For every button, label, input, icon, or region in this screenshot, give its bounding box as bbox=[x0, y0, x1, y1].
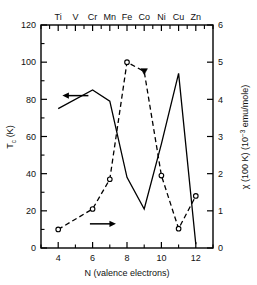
y2-tick-label: 3 bbox=[218, 132, 223, 142]
x-axis-tick-labels: 4681012 bbox=[56, 253, 201, 263]
data-marker-open-circle bbox=[90, 207, 95, 212]
data-marker-open-circle bbox=[194, 194, 199, 199]
y2-tick-label: 5 bbox=[218, 57, 223, 67]
y-tick-label: 100 bbox=[21, 57, 36, 67]
data-marker-open-circle bbox=[56, 227, 61, 232]
element-label: Ti bbox=[55, 12, 62, 22]
y2-tick-label: 4 bbox=[218, 95, 223, 105]
y2-axis-title-tail: emu/mole) bbox=[240, 85, 250, 130]
right-axis-ticks bbox=[207, 25, 213, 248]
element-label: Ni bbox=[157, 12, 166, 22]
chart-figure: TiVCrMnFeCoNiCuZn 4681012 02040608010012… bbox=[0, 0, 257, 285]
y2-tick-label: 0 bbox=[218, 243, 223, 253]
y-axis-title: Tc (K) bbox=[5, 125, 17, 148]
x-tick-label: 8 bbox=[124, 253, 129, 263]
element-label: Co bbox=[138, 12, 150, 22]
x-axis-title: N (valence electrons) bbox=[84, 268, 169, 278]
y-tick-label: 120 bbox=[21, 20, 36, 30]
x-tick-label: 6 bbox=[90, 253, 95, 263]
y2-tick-label: 1 bbox=[218, 206, 223, 216]
y2-tick-label: 6 bbox=[218, 20, 223, 30]
bottom-axis-ticks bbox=[41, 242, 213, 248]
y-tick-label: 60 bbox=[26, 132, 36, 142]
top-axis-labels: TiVCrMnFeCoNiCuZn bbox=[55, 12, 201, 22]
y-tick-label: 20 bbox=[26, 206, 36, 216]
left-axis-ticks bbox=[41, 25, 47, 248]
data-marker-filled-triangle bbox=[141, 69, 147, 75]
element-label: Cr bbox=[88, 12, 98, 22]
y-tick-label: 0 bbox=[31, 243, 36, 253]
x-tick-label: 12 bbox=[191, 253, 201, 263]
y2-axis-title: χ (100 K) (10−3 emu/mole) bbox=[239, 85, 250, 190]
x-tick-label: 10 bbox=[156, 253, 166, 263]
annotation-arrow-head-left-arrow bbox=[62, 92, 69, 98]
top-axis-ticks bbox=[41, 25, 213, 31]
element-label: Fe bbox=[122, 12, 133, 22]
element-label: Mn bbox=[104, 12, 117, 22]
svg-text:Tc (K): Tc (K) bbox=[5, 125, 17, 148]
data-marker-open-circle bbox=[108, 177, 113, 182]
data-marker-open-circle bbox=[176, 226, 181, 231]
y-tick-label: 40 bbox=[26, 169, 36, 179]
svg-text:χ (100 K) (10−3 emu/mole): χ (100 K) (10−3 emu/mole) bbox=[239, 85, 250, 190]
y-axis-tick-labels: 020406080100120 bbox=[21, 20, 36, 253]
y2-axis-tick-labels: 0123456 bbox=[218, 20, 223, 253]
element-label: V bbox=[72, 12, 78, 22]
y-tick-label: 80 bbox=[26, 95, 36, 105]
y-axis-title-unit: (K) bbox=[5, 125, 15, 140]
element-label: Cu bbox=[173, 12, 185, 22]
data-series-layer bbox=[56, 60, 198, 244]
annotation-layer bbox=[62, 92, 116, 227]
data-marker-open-circle bbox=[159, 173, 164, 178]
annotation-arrow-head-right-arrow bbox=[109, 221, 116, 227]
element-label: Zn bbox=[191, 12, 202, 22]
y2-tick-label: 2 bbox=[218, 169, 223, 179]
plot-frame bbox=[41, 25, 213, 248]
y2-axis-title-main: χ (100 K) (10 bbox=[240, 137, 250, 189]
x-tick-label: 4 bbox=[56, 253, 61, 263]
tc-chi-vs-valence-electrons-chart: TiVCrMnFeCoNiCuZn 4681012 02040608010012… bbox=[0, 0, 257, 285]
data-marker-open-circle bbox=[125, 60, 130, 65]
